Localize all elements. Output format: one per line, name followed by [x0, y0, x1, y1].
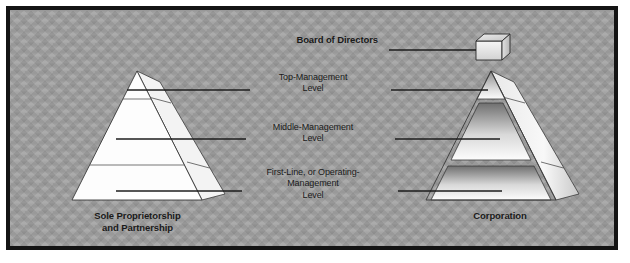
figure-root: Board of Directors Top-Management Level …: [0, 0, 630, 263]
first-line-management-label: First-Line, or Operating- Management Lev…: [238, 167, 388, 201]
middle-management-line-1: Middle-Management: [243, 122, 383, 133]
first-line-line-3: Level: [238, 190, 388, 201]
first-line-line-1: First-Line, or Operating-: [238, 167, 388, 178]
cube-icon: [476, 34, 510, 60]
first-line-line-2: Management: [238, 178, 388, 189]
middle-management-line-2: Level: [243, 133, 383, 144]
right-band-first-line: [431, 166, 551, 200]
top-management-label: Top-Management Level: [248, 72, 378, 95]
top-management-line-2: Level: [248, 83, 378, 94]
board-of-directors-label: Board of Directors: [248, 34, 378, 46]
cube-front-face: [476, 41, 502, 60]
middle-management-label: Middle-Management Level: [243, 122, 383, 145]
left-caption-line-2: and Partnership: [55, 222, 220, 234]
right-pyramid-caption: Corporation: [440, 210, 560, 222]
left-caption-line-1: Sole Proprietorship: [55, 210, 220, 222]
top-management-line-1: Top-Management: [248, 72, 378, 83]
left-pyramid-caption: Sole Proprietorship and Partnership: [55, 210, 220, 234]
